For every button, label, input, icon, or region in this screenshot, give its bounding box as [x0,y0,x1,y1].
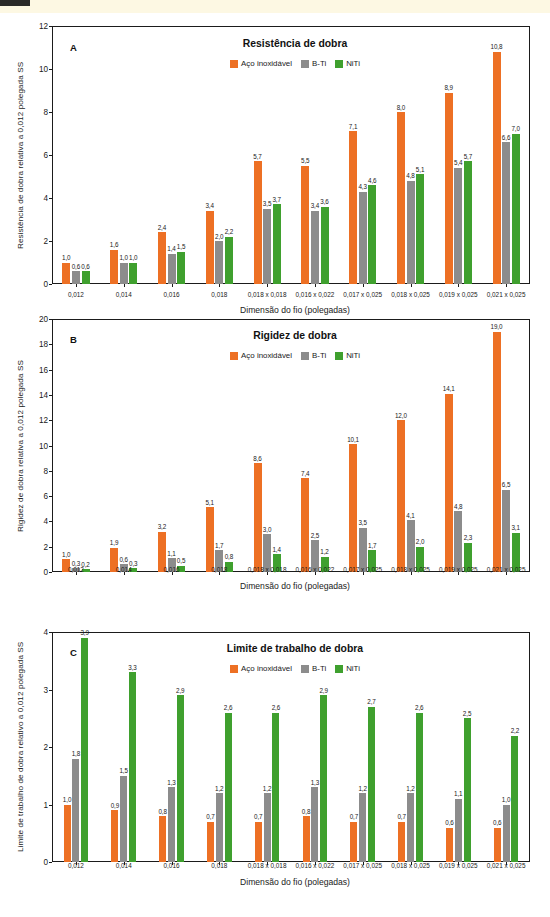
y-tick-label: 1 [30,800,48,809]
x-axis-title-b: Dimensão do fio (polegadas) [0,581,550,591]
legend-label: Aço inoxidável [241,351,292,360]
bar-value-label: 2,0 [215,233,223,240]
bar-aço-inoxidável [301,166,309,284]
bar-aço-inoxidável [445,394,453,572]
bar-b-ti [216,793,223,862]
bar-value-label: 1,0 [129,254,137,261]
x-tick-mark [267,862,268,865]
x-tick-label: 0,016 x 0,022 [296,291,335,298]
y-tick-label: 6 [30,151,48,160]
x-tick-mark [124,284,125,287]
bar-value-label: 4,1 [406,512,414,519]
bar-value-label: 1,7 [215,542,223,549]
y-tick-mark [49,241,52,242]
x-tick-mark [172,284,173,287]
bar-aço-inoxidável [446,828,453,863]
x-tick-label: 0,018 x 0,025 [391,291,430,298]
bar-b-ti [359,192,367,284]
y-tick-mark [49,747,52,748]
legend-item: NiTi [335,59,360,68]
y-tick-label: 8 [30,108,48,117]
y-tick-mark [49,572,52,573]
x-tick-mark [506,284,507,287]
legend-swatch-icon [230,352,238,360]
bar-niti [177,695,184,862]
y-tick-label: 4 [30,517,48,526]
bar-value-label: 1,8 [72,750,80,757]
bar-aço-inoxidável [206,507,214,572]
y-tick-mark [49,690,52,691]
bar-value-label: 1,0 [63,796,71,803]
y-tick-label: 12 [30,416,48,425]
y-tick-mark [49,420,52,421]
bar-value-label: 5,1 [205,499,213,506]
bar-value-label: 2,3 [464,534,472,541]
x-tick-label: 0,021 x 0,025 [487,291,526,298]
bar-niti [512,134,520,285]
legend-swatch-icon [335,665,343,673]
legend-label: B-Ti [312,59,326,68]
legend-swatch-icon [301,60,309,68]
bar-value-label: 2,2 [511,727,519,734]
bar-value-label: 8,6 [253,455,261,462]
x-tick-mark [267,284,268,287]
bar-value-label: 0,5 [177,557,185,564]
legend-item: B-Ti [301,59,326,68]
x-tick-mark [506,862,507,865]
bar-value-label: 0,6 [493,819,501,826]
bar-value-label: 2,9 [176,687,184,694]
bar-niti [129,672,136,862]
x-tick-mark [219,284,220,287]
bar-aço-inoxidável [303,816,310,862]
bar-value-label: 1,7 [368,542,376,549]
bar-value-label: 1,6 [110,241,118,248]
bar-niti [368,707,375,862]
x-tick-mark [219,862,220,865]
legend-swatch-icon [301,665,309,673]
y-axis-title-a: Resistência de dobra relativa a 0,012 po… [16,61,25,248]
bar-value-label: 3,3 [128,664,136,671]
chart-panel-b: 02468101214161820Rigidez de dobra relati… [0,307,550,598]
y-axis-title-b: Rigidez de dobra relativa a 0,012 polega… [16,360,25,532]
legend-label: B-Ti [312,351,326,360]
y-tick-mark [49,496,52,497]
bar-value-label: 10,8 [491,43,503,50]
bar-value-label: 6,6 [502,134,510,141]
bar-value-label: 4,3 [358,183,366,190]
bar-value-label: 3,6 [320,198,328,205]
bar-value-label: 5,5 [301,157,309,164]
bar-b-ti [168,254,176,284]
bar-niti [320,695,327,862]
chart-title-b: Rigidez de dobra [0,330,550,341]
bar-niti [81,638,88,862]
bar-aço-inoxidável [445,93,453,284]
bar-value-label: 1,2 [358,785,366,792]
bar-value-label: 12,0 [395,412,407,419]
x-tick-mark [219,572,220,575]
bar-value-label: 2,2 [225,228,233,235]
bar-aço-inoxidável [493,52,501,284]
bar-aço-inoxidável [158,232,166,284]
bar-value-label: 0,7 [206,813,214,820]
bar-aço-inoxidável [62,263,70,285]
y-tick-label: 0 [30,280,48,289]
bar-value-label: 1,2 [215,785,223,792]
bar-value-label: 0,6 [81,263,89,270]
x-tick-label: 0,019 x 0,025 [439,291,478,298]
bar-aço-inoxidável [350,822,357,862]
top-decorative-band [0,0,550,13]
bar-b-ti [120,263,128,285]
bar-aço-inoxidável [255,822,262,862]
bar-value-label: 7,4 [301,470,309,477]
legend-b: Aço inoxidávelB-TiNiTi [0,351,550,360]
x-tick-mark [506,572,507,575]
y-tick-label: 16 [30,365,48,374]
bar-b-ti [502,142,510,284]
y-tick-mark [49,319,52,320]
bar-b-ti [72,271,80,284]
bar-value-label: 0,8 [158,808,166,815]
bar-value-label: 0,7 [254,813,262,820]
x-tick-label: 0,018 x 0,018 [248,291,287,298]
bar-niti [321,207,329,284]
x-tick-mark [363,862,364,865]
